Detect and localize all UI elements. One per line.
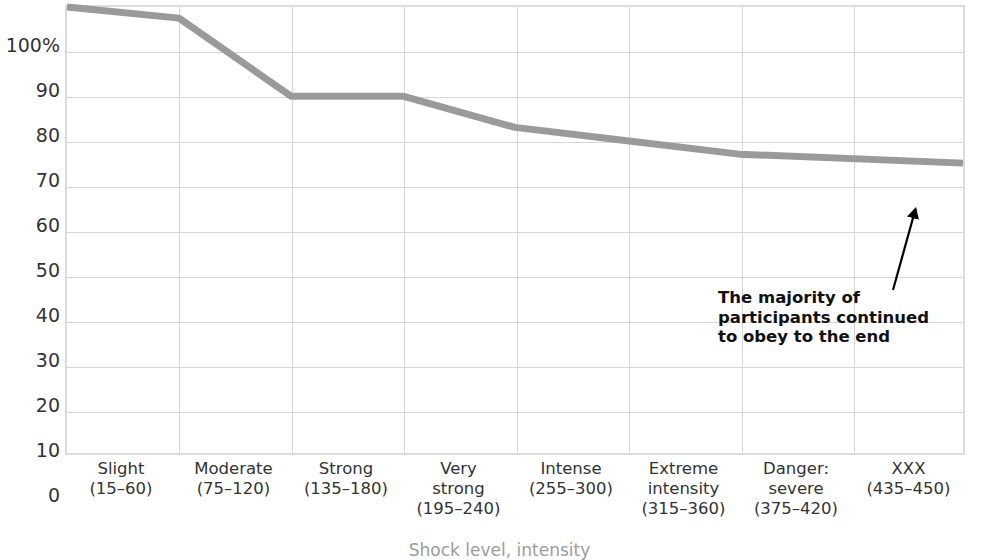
y-tick-label: 70 [2, 171, 60, 190]
y-tick-label: 20 [2, 396, 60, 415]
x-tick-line: Danger: [740, 459, 852, 479]
y-axis: 100% 90 80 70 60 50 40 30 20 10 0 [0, 0, 60, 460]
y-tick-label: 50 [2, 261, 60, 280]
x-tick-label: Slight (15–60) [65, 459, 177, 499]
x-tick-label: Very strong (195–240) [402, 459, 515, 519]
annotation-line: participants continued [718, 308, 933, 328]
y-tick-label: 40 [2, 306, 60, 325]
x-tick-line: Extreme [627, 459, 740, 479]
x-tick-label: Extreme intensity (315–360) [627, 459, 740, 519]
x-tick-label: Strong (135–180) [290, 459, 402, 499]
x-axis-title: Shock level, intensity [0, 540, 999, 560]
x-tick-line: (315–360) [627, 499, 740, 519]
x-tick-label: XXX (435–450) [852, 459, 965, 499]
x-tick-line: Strong [290, 459, 402, 479]
x-tick-label: Danger: severe (375–420) [740, 459, 852, 519]
series-polyline [67, 7, 963, 163]
x-tick-line: severe [740, 479, 852, 499]
x-tick-line: intensity [627, 479, 740, 499]
x-tick-line: (375–420) [740, 499, 852, 519]
y-tick-label: 0 [2, 486, 60, 505]
x-tick-label: Intense (255–300) [515, 459, 627, 499]
x-tick-line: strong [402, 479, 515, 499]
x-tick-line: XXX [852, 459, 965, 479]
x-tick-label: Moderate (75–120) [177, 459, 290, 499]
y-tick-label: 90 [2, 81, 60, 100]
y-tick-label: 80 [2, 126, 60, 145]
x-tick-line: Intense [515, 459, 627, 479]
x-tick-line: (195–240) [402, 499, 515, 519]
y-tick-label: 30 [2, 351, 60, 370]
x-tick-line: (75–120) [177, 479, 290, 499]
y-tick-label: 100% [2, 36, 60, 55]
x-tick-line: (135–180) [290, 479, 402, 499]
x-tick-line: Slight [65, 459, 177, 479]
x-tick-line: Very [402, 459, 515, 479]
x-tick-line: Moderate [177, 459, 290, 479]
x-tick-line: (15–60) [65, 479, 177, 499]
annotation-line: to obey to the end [718, 327, 933, 347]
x-axis: Slight (15–60) Moderate (75–120) Strong … [65, 459, 965, 539]
y-tick-label: 60 [2, 216, 60, 235]
data-series-line [67, 7, 963, 453]
y-tick-label: 10 [2, 441, 60, 460]
plot-area [65, 5, 965, 455]
annotation-arrow-icon [860, 190, 940, 300]
x-tick-line: (255–300) [515, 479, 627, 499]
x-tick-line: (435–450) [852, 479, 965, 499]
